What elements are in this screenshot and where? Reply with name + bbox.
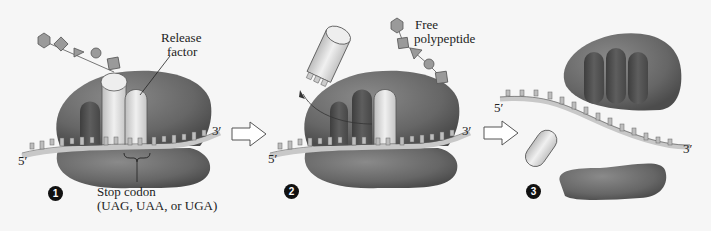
step-1-badge: 1: [48, 186, 63, 201]
five-prime-label-3: 5′: [494, 101, 503, 115]
stop-codon-label-line2: (UAG, UAA, or UGA): [97, 199, 227, 213]
release-factor: [125, 90, 147, 147]
step-2-badge: 2: [284, 184, 299, 199]
step-3-badge: 3: [526, 184, 541, 199]
panel-3: [500, 33, 690, 200]
small-subunit-3: [559, 164, 666, 200]
three-prime-label-3: 3′: [683, 142, 692, 156]
free-polypeptide-label-line2: polypeptide: [414, 32, 505, 46]
small-subunit-1: [57, 148, 211, 188]
stop-codon-label: Stop codon (UAG, UAA, or UGA): [97, 185, 227, 213]
three-prime-label-1: 3′: [212, 124, 221, 138]
release-factor-label-line2: factor: [161, 45, 221, 59]
arrow-step-2-to-3: [484, 121, 518, 145]
release-factor-label: Release factor: [161, 31, 221, 59]
five-prime-label-2: 5′: [268, 152, 277, 166]
arrow-step-1-to-2: [232, 122, 266, 146]
trna-p-site: [102, 83, 126, 146]
five-prime-label-1: 5′: [18, 154, 27, 168]
translation-termination-diagram: Release factor Stop codon (UAG, UAA, or …: [0, 0, 711, 231]
release-factor-2: [374, 90, 396, 147]
three-prime-label-2: 3′: [462, 124, 471, 138]
free-polypeptide-label-line1: Free: [415, 18, 505, 32]
stop-codon-label-line1: Stop codon: [97, 185, 227, 199]
release-factor-label-line1: Release: [161, 31, 221, 45]
polypeptide-chain-1: [38, 33, 120, 72]
free-polypeptide-label: Free polypeptide: [415, 18, 505, 46]
released-factor: [521, 126, 560, 170]
